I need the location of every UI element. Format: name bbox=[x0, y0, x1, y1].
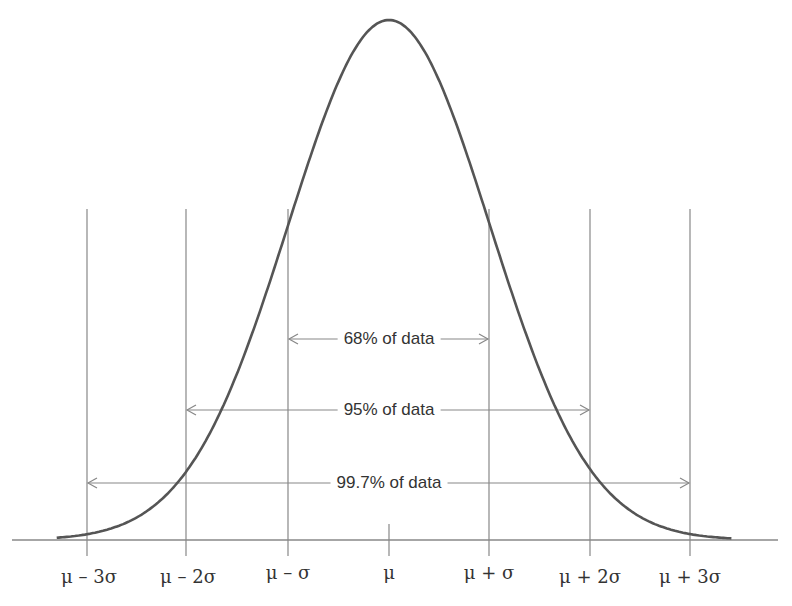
sigma-lines bbox=[87, 209, 690, 556]
normal-distribution-chart bbox=[0, 0, 792, 606]
range-label-95: 95% of data bbox=[338, 400, 441, 420]
tick-label-minus-3-sigma: μ – 3σ bbox=[61, 566, 117, 587]
range-label-99-7: 99.7% of data bbox=[331, 473, 448, 493]
range-label-68: 68% of data bbox=[338, 329, 441, 349]
bell-curve bbox=[57, 20, 732, 538]
tick-label-plus-1-sigma: μ + σ bbox=[464, 562, 515, 583]
tick-label-minus-1-sigma: μ – σ bbox=[266, 562, 310, 583]
tick-label-minus-2-sigma: μ – 2σ bbox=[160, 566, 216, 587]
tick-label-plus-2-sigma: μ + 2σ bbox=[559, 566, 621, 587]
tick-label-plus-3-sigma: μ + 3σ bbox=[659, 566, 721, 587]
tick-label-mu: μ bbox=[383, 562, 395, 583]
